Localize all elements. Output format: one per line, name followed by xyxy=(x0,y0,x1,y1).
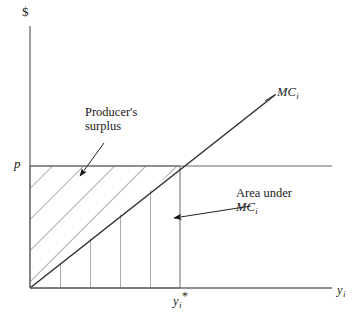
mc-curve-label: MCi xyxy=(277,85,299,101)
area-under-mc-label-line1: Area under xyxy=(236,186,292,200)
price-axis-label: p xyxy=(14,157,21,172)
area-under-mc-label: Area under MCi xyxy=(236,186,292,216)
optimal-quantity-label: yi* xyxy=(173,290,188,310)
area-under-mc-label-line2: MCi xyxy=(236,200,292,216)
x-axis-label-subscript: i xyxy=(343,289,346,299)
x-axis-label: yi xyxy=(337,283,345,299)
y-axis-currency-label: $ xyxy=(22,5,29,20)
producer-surplus-label-line1: Producer's xyxy=(85,105,137,119)
mc-curve-label-base: MC xyxy=(277,85,296,99)
area-under-mc-base: MC xyxy=(236,200,255,214)
producer-surplus-diagram: $ p Producer's surplus Area under MCi MC… xyxy=(0,0,361,319)
diagram-canvas xyxy=(0,0,361,319)
optimal-quantity-base: y xyxy=(173,294,179,308)
x-axis-label-base: y xyxy=(337,283,343,297)
producer-surplus-label: Producer's surplus xyxy=(85,105,137,134)
mc-curve-label-subscript: i xyxy=(296,91,299,101)
area-under-mc-subscript: i xyxy=(255,206,258,216)
producer-surplus-label-line2: surplus xyxy=(85,119,137,133)
mc-label-leader xyxy=(265,94,276,101)
optimal-quantity-star: * xyxy=(181,289,187,303)
